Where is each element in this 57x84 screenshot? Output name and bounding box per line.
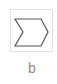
option-label: b [0,60,57,76]
option-b-tile[interactable] [10,9,53,52]
chevron-arrow-shape-icon [11,10,52,51]
